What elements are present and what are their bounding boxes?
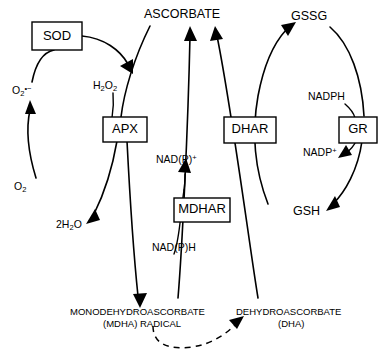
edge-h2o2-to-apx [112, 93, 113, 118]
metabolite-gsh: GSH [293, 204, 320, 218]
enzyme-node-sod[interactable]: SOD [32, 22, 82, 50]
edge-gssg-to-gr [330, 27, 364, 116]
edge-dha-to-ascorbate [217, 36, 258, 298]
edge-apx-to-mdha [127, 141, 138, 296]
metabolite-h2o2: H2O2 [93, 79, 117, 93]
edge-mdhar-nadp-stub [184, 174, 185, 190]
enzyme-node-apx[interactable]: APX [103, 117, 147, 142]
enzyme-label-gr: GR [348, 121, 368, 136]
enzyme-label-mdhar: MDHAR [178, 201, 226, 216]
edge-ascorbate-to-apx [121, 26, 150, 117]
enzyme-node-dhar[interactable]: DHAR [224, 117, 276, 143]
metabolite-mdha-line1: MONODEHYDROASCORBATE [70, 306, 205, 317]
metabolite-superoxide: O2•− [12, 84, 32, 98]
arrowhead-dha-dashed [229, 316, 244, 329]
enzyme-label-sod: SOD [43, 28, 71, 43]
metabolite-water: 2H2O [56, 218, 82, 232]
metabolite-gssg: GSSG [291, 9, 327, 23]
metabolite-nadp-ox: NAD(P)+ [156, 153, 197, 165]
enzyme-node-gr[interactable]: GR [339, 117, 377, 143]
metabolite-ascorbate: ASCORBATE [144, 7, 220, 21]
arrowhead-superoxide [25, 100, 36, 114]
arrowhead-ascorbate-from-mdhar [184, 26, 197, 41]
pathway-diagram: SOD APX MDHAR DHAR GR ASCORBATE GSSG GSH… [0, 0, 383, 363]
enzyme-node-mdhar[interactable]: MDHAR [174, 198, 230, 222]
edge-apx-to-water [94, 141, 117, 214]
metabolite-nadp-red: NAD(P)H [152, 241, 196, 253]
enzyme-label-apx: APX [112, 121, 138, 136]
edge-sod-to-h2o2 [82, 36, 128, 64]
edge-o2-to-superoxide [28, 110, 36, 178]
edge-nadph-to-gr [345, 104, 355, 118]
arrowhead-nadp-plus [338, 145, 352, 158]
arrowhead-ascorbate-from-dhar [210, 26, 223, 41]
metabolite-nadp-plus: NADP+ [303, 146, 337, 158]
metabolite-dha-line2: (DHA) [278, 318, 304, 329]
metabolite-nadph: NADPH [308, 90, 345, 102]
enzyme-label-dhar: DHAR [232, 121, 269, 136]
arrowhead-water [86, 209, 100, 224]
metabolite-mdha-line2: (MDHA) RADICAL [103, 318, 181, 329]
edge-superoxide-to-sod [32, 50, 54, 82]
metabolite-dha-line1: DEHYDROASCORBATE [236, 306, 341, 317]
metabolite-o2: O2 [14, 180, 26, 194]
pathway-canvas: SOD APX MDHAR DHAR GR ASCORBATE GSSG GSH… [0, 0, 383, 363]
